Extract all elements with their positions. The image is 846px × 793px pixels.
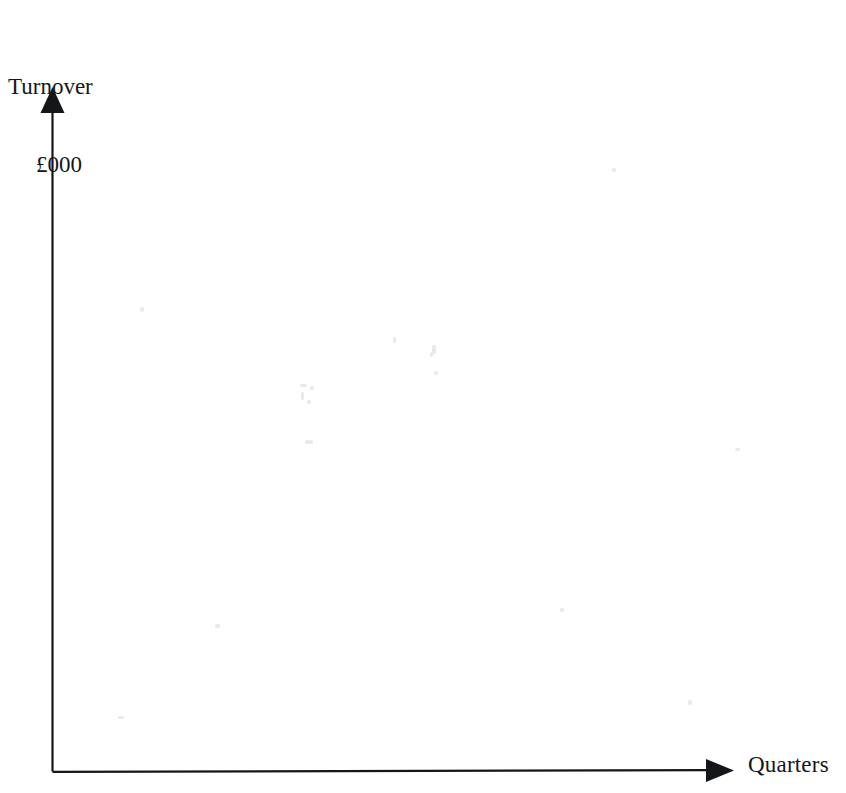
x-axis-arrowhead [706,759,734,782]
axes-drawing [0,0,846,793]
y-axis-arrowhead [41,87,65,113]
x-axis-line [53,770,711,772]
blank-axes-chart: Turnover £000 Quarters [0,0,846,793]
plot-area [54,112,704,769]
